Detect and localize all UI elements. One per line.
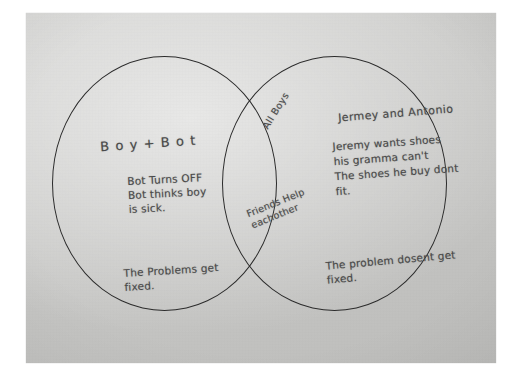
paper-sheet: B o y + B o t Bot Turns OFF Bot thinks b… [26,13,496,363]
photograph: B o y + B o t Bot Turns OFF Bot thinks b… [0,0,522,381]
left-set-body-text: Bot Turns OFF Bot thinks boy is sick. [127,171,207,217]
left-set-bottom-text: The Problems get fixed. [123,261,220,294]
right-set-body-text: Jeremy wants shoes his gramma can't The … [332,131,460,199]
